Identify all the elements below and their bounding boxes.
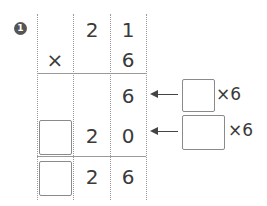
result-hundreds-blank[interactable] (39, 161, 72, 196)
arrow-shaft (156, 94, 178, 95)
grid-line (146, 14, 147, 200)
problem-number-badge: 1 (14, 22, 27, 35)
multiply-sign: × (37, 48, 73, 72)
hint1-label: ×6 (216, 84, 241, 104)
sum-line (37, 73, 146, 74)
multiplier-ones: 6 (110, 48, 146, 72)
hint1-blank[interactable] (182, 79, 215, 112)
sum-line (37, 156, 146, 157)
partial2-tens: 2 (74, 124, 110, 148)
arrow-shaft (156, 131, 178, 132)
hint2-label: ×6 (228, 120, 253, 140)
hint2-blank[interactable] (182, 115, 225, 150)
result-tens: 2 (74, 165, 110, 189)
partial2-ones: 0 (110, 124, 146, 148)
result-ones: 6 (110, 165, 146, 189)
multiplicand-ones: 1 (110, 18, 146, 42)
partial1-ones: 6 (110, 84, 146, 108)
multiplicand-tens: 2 (74, 18, 110, 42)
partial2-hundreds-blank[interactable] (39, 120, 72, 155)
grid-line (37, 14, 38, 200)
